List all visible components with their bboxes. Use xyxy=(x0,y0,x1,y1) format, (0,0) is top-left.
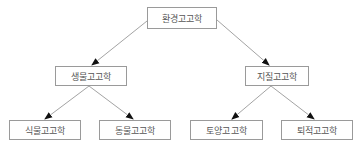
node-geoarchaeology: 지질고고학 xyxy=(245,66,309,86)
node-label: 식물고고학 xyxy=(25,124,66,137)
edge-root-to-geo xyxy=(217,20,269,65)
node-environmental-archaeology: 환경고고학 xyxy=(147,7,217,29)
node-label: 동물고고학 xyxy=(115,124,156,137)
edge-geo-to-sed xyxy=(271,86,314,119)
node-label: 토양고고학 xyxy=(206,124,247,137)
node-sediment-archaeology: 퇴적고고학 xyxy=(281,120,353,140)
node-label: 환경고고학 xyxy=(162,12,203,25)
node-bioarchaeology: 생물고고학 xyxy=(55,66,127,86)
node-archaeobotany: 식물고고학 xyxy=(9,120,81,140)
edge-bio-to-plant xyxy=(45,86,89,119)
node-label: 지질고고학 xyxy=(257,70,298,83)
edge-root-to-bio xyxy=(92,21,147,65)
node-soil-archaeology: 토양고고학 xyxy=(190,120,263,140)
node-label: 생물고고학 xyxy=(71,70,112,83)
edge-geo-to-soil xyxy=(232,86,271,119)
classification-diagram: 환경고고학 생물고고학 지질고고학 식물고고학 동물고고학 토양고고학 퇴적고고… xyxy=(0,0,362,149)
node-label: 퇴적고고학 xyxy=(297,124,338,137)
node-zooarchaeology: 동물고고학 xyxy=(99,120,171,140)
edge-bio-to-animal xyxy=(89,86,133,119)
